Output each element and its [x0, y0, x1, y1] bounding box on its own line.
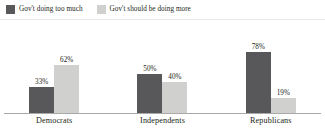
- bar-value-label: 62%: [60, 56, 73, 64]
- category-label-independents: Independents: [108, 115, 216, 132]
- legend-item-label: Gov't doing too much: [19, 5, 83, 14]
- bar-value-label: 33%: [35, 78, 48, 86]
- bar-chart-plot: 33% 62% 50% 40%: [0, 20, 325, 114]
- category-label-democrats: Democrats: [0, 115, 108, 132]
- bar-gov-doing-more: [54, 65, 79, 113]
- bar-gov-doing-more: [162, 82, 187, 113]
- bar-group-democrats: 33% 62%: [0, 20, 108, 113]
- square-swatch-icon: [97, 5, 106, 14]
- legend-item-gov-doing-more: Gov't should be doing more: [97, 5, 191, 14]
- bar-wrap-series-1: 62%: [54, 20, 79, 113]
- bar-value-label: 50%: [143, 65, 156, 73]
- bar-pair: 78% 19%: [246, 20, 296, 113]
- bar-gov-too-much: [246, 52, 271, 113]
- x-axis-baseline: [4, 113, 321, 114]
- chart-legend: Gov't doing too much Gov't should be doi…: [0, 0, 325, 19]
- bar-wrap-series-1: 40%: [162, 20, 187, 113]
- bar-group-independents: 50% 40%: [108, 20, 216, 113]
- bar-wrap-series-0: 78%: [246, 20, 271, 113]
- category-axis-labels: Democrats Independents Republicans: [0, 115, 325, 132]
- bar-value-label: 78%: [252, 43, 265, 51]
- bar-wrap-series-1: 19%: [271, 20, 296, 113]
- bar-gov-doing-more: [271, 98, 296, 113]
- legend-item-gov-too-much: Gov't doing too much: [6, 5, 83, 14]
- bar-wrap-series-0: 33%: [29, 20, 54, 113]
- bar-gov-too-much: [137, 74, 162, 113]
- legend-item-label: Gov't should be doing more: [110, 5, 191, 14]
- bar-pair: 33% 62%: [29, 20, 79, 113]
- bar-pair: 50% 40%: [137, 20, 187, 113]
- bar-groups: 33% 62% 50% 40%: [0, 20, 325, 113]
- bar-wrap-series-0: 50%: [137, 20, 162, 113]
- bar-gov-too-much: [29, 87, 54, 113]
- bar-value-label: 19%: [277, 89, 290, 97]
- category-label-republicans: Republicans: [217, 115, 325, 132]
- bar-group-republicans: 78% 19%: [217, 20, 325, 113]
- bar-value-label: 40%: [168, 73, 181, 81]
- square-swatch-icon: [6, 5, 15, 14]
